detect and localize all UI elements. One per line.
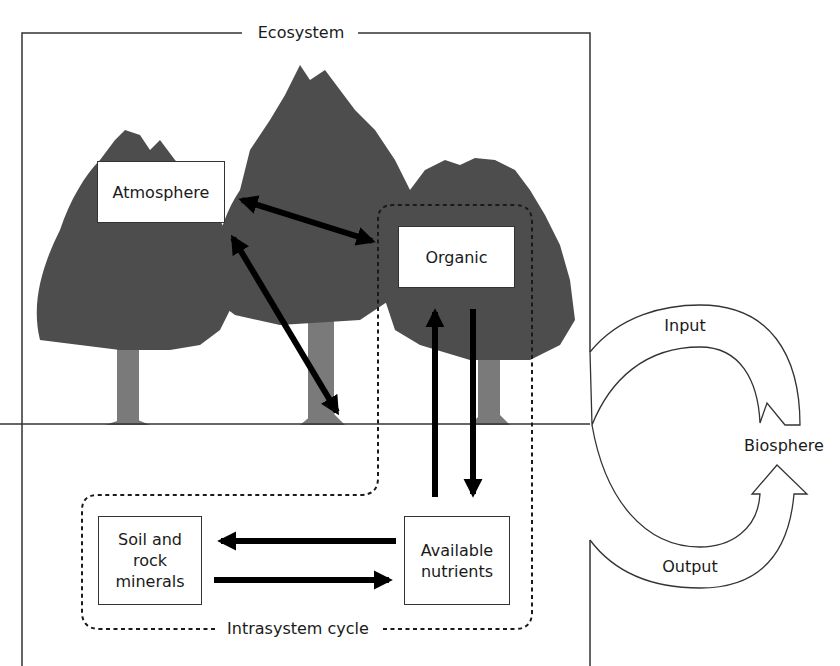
soil-line-3: minerals bbox=[115, 571, 184, 592]
node-atmosphere: Atmosphere bbox=[97, 161, 225, 223]
node-atmosphere-label: Atmosphere bbox=[113, 182, 210, 203]
nutrients-line-1: Available bbox=[421, 540, 493, 561]
tree-right bbox=[384, 158, 575, 425]
intrasystem-cycle-label: Intrasystem cycle bbox=[218, 619, 378, 639]
node-available-nutrients: Available nutrients bbox=[404, 516, 510, 605]
soil-line-2: rock bbox=[133, 550, 167, 571]
nutrients-line-2: nutrients bbox=[421, 561, 493, 582]
node-soil-rock-minerals: Soil and rock minerals bbox=[98, 516, 202, 605]
output-label: Output bbox=[655, 557, 725, 577]
ecosystem-label: Ecosystem bbox=[246, 23, 356, 43]
node-organic-label: Organic bbox=[425, 247, 487, 268]
node-organic: Organic bbox=[398, 226, 515, 288]
biosphere-label: Biosphere bbox=[736, 436, 832, 456]
soil-line-1: Soil and bbox=[118, 529, 182, 550]
input-label: Input bbox=[660, 316, 710, 336]
